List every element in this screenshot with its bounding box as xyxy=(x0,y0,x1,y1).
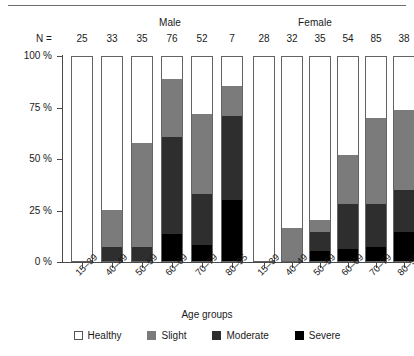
bar-male-40–49 xyxy=(101,56,123,262)
segment-moderate xyxy=(222,116,242,200)
y-tick-50 xyxy=(57,159,62,160)
y-tick-label-100: 100 % xyxy=(6,50,52,61)
segment-healthy xyxy=(282,57,302,228)
legend-item-severe: Severe xyxy=(295,330,341,341)
segment-slight xyxy=(338,155,358,204)
legend-item-healthy: Healthy xyxy=(74,330,122,341)
bar-male-70–79 xyxy=(191,56,213,262)
segment-healthy xyxy=(366,57,386,118)
n-value-male-40–49: 33 xyxy=(100,33,124,44)
y-tick-label-0: 0 % xyxy=(6,256,52,267)
segment-healthy xyxy=(254,57,274,261)
n-value-male-50–59: 35 xyxy=(130,33,154,44)
chart-figure: Male Female N = 25333576527283235548538 … xyxy=(0,0,414,356)
legend-item-slight: Slight xyxy=(147,330,186,341)
segment-slight xyxy=(102,210,122,247)
group-title-male: Male xyxy=(140,17,200,28)
y-tick-label-50: 50 % xyxy=(6,153,52,164)
legend-swatch-severe-icon xyxy=(295,331,304,340)
bar-male-60–69 xyxy=(161,56,183,262)
segment-slight xyxy=(394,110,414,190)
segment-slight xyxy=(222,86,242,117)
segment-healthy xyxy=(222,57,242,86)
segment-severe xyxy=(222,200,242,261)
segment-slight xyxy=(192,114,212,194)
legend-label: Moderate xyxy=(226,330,268,341)
n-value-female-50–59: 35 xyxy=(308,33,332,44)
y-tick-label-75: 75 % xyxy=(6,102,52,113)
n-row-label: N = xyxy=(36,33,52,44)
legend-label: Healthy xyxy=(88,330,122,341)
segment-moderate xyxy=(394,190,414,233)
segment-moderate xyxy=(192,194,212,245)
legend-swatch-moderate-icon xyxy=(212,331,221,340)
legend-swatch-healthy-icon xyxy=(74,331,83,340)
n-value-female-60–69: 54 xyxy=(336,33,360,44)
group-title-female: Female xyxy=(285,17,345,28)
bar-male-15–39 xyxy=(71,56,93,262)
segment-healthy xyxy=(310,57,330,220)
x-axis-title: Age groups xyxy=(0,309,414,320)
segment-healthy xyxy=(192,57,212,114)
segment-healthy xyxy=(162,57,182,79)
segment-healthy xyxy=(394,57,414,110)
y-tick-75 xyxy=(57,108,62,109)
segment-slight xyxy=(162,79,182,136)
bar-female-50–59 xyxy=(309,56,331,262)
bar-female-80–95 xyxy=(393,56,414,262)
chart-legend: HealthySlightModerateSevere xyxy=(0,330,414,341)
n-value-female-15–39: 28 xyxy=(252,33,276,44)
y-tick-0 xyxy=(57,262,62,263)
segment-slight xyxy=(132,143,152,247)
n-value-male-15–39: 25 xyxy=(70,33,94,44)
bar-female-40–49 xyxy=(281,56,303,262)
header-divider xyxy=(8,5,406,6)
segment-moderate xyxy=(162,137,182,235)
segment-slight xyxy=(366,118,386,204)
segment-moderate xyxy=(310,232,330,250)
y-tick-label-25: 25 % xyxy=(6,205,52,216)
segment-moderate xyxy=(366,204,386,247)
n-value-female-40–49: 32 xyxy=(280,33,304,44)
n-value-male-60–69: 76 xyxy=(160,33,184,44)
segment-healthy xyxy=(102,57,122,210)
y-tick-100 xyxy=(57,56,62,57)
bar-female-15–39 xyxy=(253,56,275,262)
segment-healthy xyxy=(72,57,92,261)
legend-label: Severe xyxy=(309,330,341,341)
n-value-male-80–95: 7 xyxy=(220,33,244,44)
bar-male-80–95 xyxy=(221,56,243,262)
n-value-male-70–79: 52 xyxy=(190,33,214,44)
legend-swatch-slight-icon xyxy=(147,331,156,340)
y-tick-25 xyxy=(57,211,62,212)
bar-female-70–79 xyxy=(365,56,387,262)
legend-label: Slight xyxy=(161,330,186,341)
segment-healthy xyxy=(338,57,358,155)
plot-area xyxy=(63,56,411,262)
segment-slight xyxy=(310,220,330,232)
segment-healthy xyxy=(132,57,152,143)
n-value-female-80–95: 38 xyxy=(392,33,414,44)
bar-female-60–69 xyxy=(337,56,359,262)
legend-item-moderate: Moderate xyxy=(212,330,268,341)
segment-moderate xyxy=(338,204,358,249)
n-value-female-70–79: 85 xyxy=(364,33,388,44)
bar-male-50–59 xyxy=(131,56,153,262)
